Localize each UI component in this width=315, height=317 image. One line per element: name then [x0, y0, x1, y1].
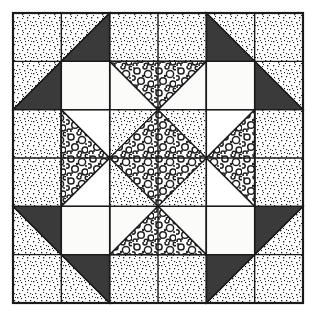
plain-square-bottom-right: [206, 206, 254, 254]
quilt-block-canvas: [0, 0, 315, 317]
plain-square-top-left: [61, 61, 109, 109]
plain-square-top-right: [206, 61, 254, 109]
plain-square-bottom-left: [61, 206, 109, 254]
quilt-block-figure: [0, 0, 315, 317]
